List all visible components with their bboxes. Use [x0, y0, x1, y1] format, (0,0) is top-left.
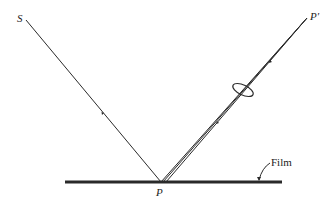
- film-pointer: [0, 0, 334, 200]
- film-pointer-arrow-icon: [257, 177, 261, 181]
